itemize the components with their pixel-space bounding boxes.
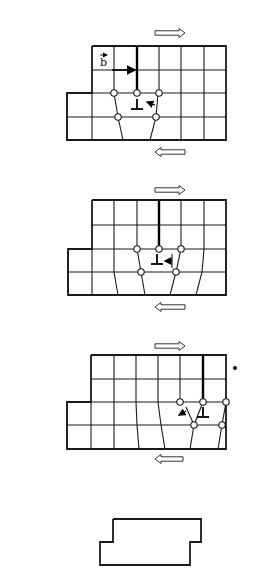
marker-dot <box>233 366 237 370</box>
panel-stage-3 <box>67 342 237 464</box>
motion-arrow-icon <box>147 102 155 105</box>
shear-arrow-top-icon <box>155 342 185 351</box>
dislocation-glide-figure: b <box>0 0 268 580</box>
atom-node <box>223 399 229 405</box>
dislocation-symbol-icon <box>151 254 163 264</box>
atom-node <box>156 246 162 252</box>
atom-node <box>111 90 117 96</box>
atom-node <box>219 422 225 428</box>
panels-group: b <box>67 29 237 464</box>
atom-node <box>200 399 206 405</box>
atom-node <box>177 399 183 405</box>
shear-arrow-top-icon <box>155 186 185 195</box>
panel-stage-2 <box>68 186 226 312</box>
shear-arrow-bottom-icon <box>155 455 183 464</box>
shear-arrow-bottom-icon <box>155 148 185 157</box>
dislocation-symbol-icon <box>131 99 143 109</box>
burgers-vector-label: b <box>100 56 107 69</box>
atom-node <box>156 90 162 96</box>
atom-node <box>191 422 197 428</box>
atom-node <box>115 114 121 120</box>
figure-canvas: b <box>0 0 268 580</box>
atom-node <box>178 246 184 252</box>
atom-node <box>173 269 179 275</box>
motion-arrow-icon <box>179 411 186 415</box>
atom-node <box>138 269 144 275</box>
atom-node <box>134 90 140 96</box>
atom-node <box>134 246 140 252</box>
shear-arrow-bottom-icon <box>155 303 185 312</box>
panel-stage-1: b <box>67 29 226 157</box>
final-crystal-outline <box>100 519 201 565</box>
atom-node <box>153 114 159 120</box>
shear-arrow-top-icon <box>155 29 185 38</box>
